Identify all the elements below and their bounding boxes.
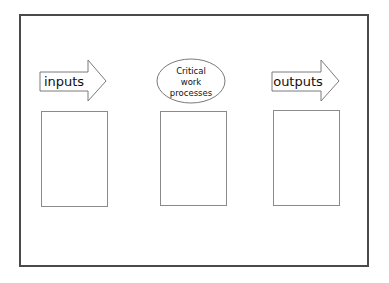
outputs-arrow: outputs: [272, 60, 339, 101]
process-label-line-2: work: [181, 77, 202, 87]
process-label-line-1: Critical: [176, 66, 206, 76]
outputs-label: outputs: [273, 74, 323, 89]
process-ellipse: Critical work processes: [157, 59, 225, 103]
inputs-arrow: inputs: [40, 60, 106, 101]
process-box: [160, 111, 227, 206]
process-label-line-3: processes: [170, 88, 213, 98]
inputs-box: [41, 111, 108, 207]
outputs-box: [273, 110, 340, 206]
inputs-label: inputs: [44, 74, 84, 89]
